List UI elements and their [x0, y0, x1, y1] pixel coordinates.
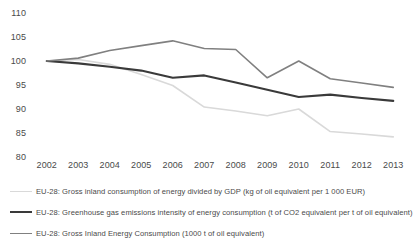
y-tick-label: 85	[4, 128, 26, 138]
x-tick-label: 2012	[346, 160, 378, 174]
y-axis: 110 105 100 95 90 85 80	[0, 0, 26, 178]
legend-item[interactable]: EU-28: Gross inland consumption of energ…	[10, 184, 365, 198]
chart-legend: EU-28: Gross inland consumption of energ…	[0, 180, 413, 245]
x-tick-label: 2008	[220, 160, 252, 174]
x-tick-label: 2002	[31, 160, 63, 174]
x-axis: 2002 2003 2004 2005 2006 2007 2008 2009 …	[31, 160, 409, 174]
x-tick-label: 2009	[252, 160, 284, 174]
y-tick-label: 100	[4, 56, 26, 66]
legend-color-swatch	[10, 211, 32, 213]
x-tick-label: 2004	[94, 160, 126, 174]
x-tick-label: 2007	[189, 160, 221, 174]
y-tick-label: 80	[4, 152, 26, 162]
x-tick-label: 2005	[126, 160, 158, 174]
series-line	[47, 41, 394, 88]
line-chart: 110 105 100 95 90 85 80 2002 2003 2004 2…	[0, 0, 413, 245]
series-line	[47, 60, 394, 137]
legend-item[interactable]: EU-28: Gross Inland Energy Consumption (…	[10, 226, 264, 240]
legend-item[interactable]: EU-28: Greenhouse gas emissions intensit…	[10, 205, 412, 219]
x-tick-label: 2011	[315, 160, 347, 174]
x-tick-label: 2010	[283, 160, 315, 174]
x-tick-label: 2003	[63, 160, 95, 174]
legend-item-label: EU-28: Greenhouse gas emissions intensit…	[36, 208, 412, 217]
plot-area	[0, 0, 413, 178]
y-tick-label: 95	[4, 80, 26, 90]
y-tick-label: 105	[4, 32, 26, 42]
legend-color-swatch	[10, 233, 32, 234]
legend-color-swatch	[10, 191, 32, 192]
y-tick-label: 110	[4, 8, 26, 18]
y-tick-label: 90	[4, 104, 26, 114]
series-group	[47, 41, 394, 137]
x-tick-label: 2013	[378, 160, 410, 174]
plot-svg	[0, 0, 413, 178]
legend-item-label: EU-28: Gross inland consumption of energ…	[36, 187, 365, 196]
legend-item-label: EU-28: Gross Inland Energy Consumption (…	[36, 229, 264, 238]
x-tick-label: 2006	[157, 160, 189, 174]
